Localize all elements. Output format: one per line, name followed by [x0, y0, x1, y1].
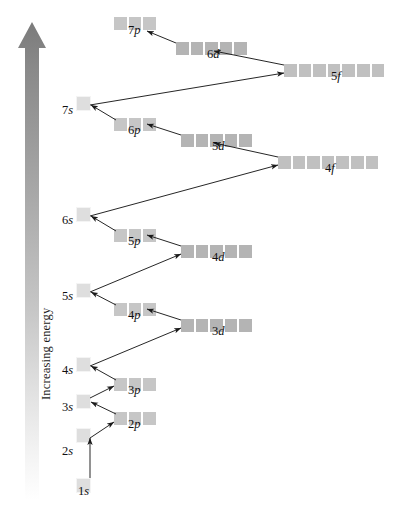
orbital-box-3p-1 — [113, 377, 128, 392]
orbital-label-1s: 1s — [78, 484, 89, 499]
filling-arrow-5s-to-4d — [90, 254, 181, 292]
orbital-box-4d-1 — [180, 244, 195, 259]
orbital-label-2s: 2s — [62, 444, 73, 459]
orbital-energy-diagram: Increasing energy 1s2s2p3s3p4s3d4p5s4d5p… — [0, 0, 404, 515]
orbital-box-4d-4 — [224, 244, 239, 259]
orbital-label-l-2s: s — [68, 444, 73, 458]
orbital-box-6s-1 — [76, 207, 91, 222]
orbital-label-6p: 6p — [128, 123, 141, 138]
orbital-row-3s — [76, 394, 91, 409]
orbital-box-2p-1 — [113, 411, 128, 426]
orbital-box-4f-3 — [306, 155, 321, 170]
orbital-label-l-4p: p — [134, 308, 140, 322]
orbital-label-6s: 6s — [62, 213, 73, 228]
energy-axis-label: Increasing energy — [39, 180, 54, 400]
orbital-label-5p: 5p — [128, 234, 141, 249]
orbital-box-7s-1 — [76, 96, 91, 111]
orbital-box-3d-2 — [195, 318, 210, 333]
orbital-label-l-2p: p — [134, 417, 140, 431]
orbital-row-6s — [76, 207, 91, 222]
orbital-box-5p-1 — [113, 228, 128, 243]
orbital-box-5p-3 — [142, 228, 157, 243]
orbital-label-4d: 4d — [212, 250, 225, 265]
orbital-label-l-5d: d — [218, 139, 224, 153]
orbital-row-5s — [76, 283, 91, 298]
orbital-box-5f-3 — [312, 63, 327, 78]
orbital-box-3s-1 — [76, 394, 91, 409]
orbital-label-l-6d: d — [213, 47, 219, 61]
orbital-box-5d-4 — [224, 133, 239, 148]
orbital-box-6d-4 — [219, 41, 234, 56]
orbital-label-l-6s: s — [68, 213, 73, 227]
orbital-label-4f: 4f — [325, 161, 335, 176]
orbital-box-4f-6 — [350, 155, 365, 170]
filling-arrow-7s-to-5f — [90, 73, 284, 105]
orbital-label-3d: 3d — [212, 324, 225, 339]
orbital-label-l-3p: p — [134, 383, 140, 397]
orbital-label-l-5p: p — [134, 234, 140, 248]
orbital-box-4f-5 — [335, 155, 350, 170]
orbital-row-4s — [76, 357, 91, 372]
orbital-box-4d-5 — [238, 244, 253, 259]
orbital-label-4p: 4p — [128, 308, 141, 323]
filling-arrow-3s-to-3p — [90, 386, 114, 398]
orbital-box-5s-1 — [76, 283, 91, 298]
orbital-label-7s: 7s — [62, 103, 73, 118]
orbital-box-4d-2 — [195, 244, 210, 259]
orbital-box-5d-1 — [180, 133, 195, 148]
filling-arrow-2s-to-2p — [90, 422, 114, 438]
orbital-box-5f-7 — [371, 63, 386, 78]
orbital-label-3s: 3s — [62, 400, 73, 415]
orbital-label-l-4d: d — [218, 250, 224, 264]
orbital-box-4f-1 — [277, 155, 292, 170]
orbital-box-4p-3 — [142, 302, 157, 317]
increasing-energy-arrow: Increasing energy — [0, 0, 72, 515]
orbital-row-7s — [76, 96, 91, 111]
filling-arrow-6d-to-7p — [147, 31, 176, 43]
orbital-box-7p-3 — [142, 16, 157, 31]
orbital-label-l-3d: d — [218, 324, 224, 338]
orbital-label-l-4f: f — [331, 161, 335, 175]
orbital-box-4p-1 — [113, 302, 128, 317]
orbital-label-5d: 5d — [212, 139, 225, 154]
orbital-label-l-3s: s — [68, 400, 73, 414]
orbital-label-l-5s: s — [68, 289, 73, 303]
orbital-label-l-5f: f — [337, 69, 341, 83]
orbital-box-4f-2 — [292, 155, 307, 170]
orbital-label-l-7s: s — [68, 103, 73, 117]
orbital-box-6d-1 — [175, 41, 190, 56]
orbital-box-5f-2 — [298, 63, 313, 78]
orbital-label-3p: 3p — [128, 383, 141, 398]
orbital-box-2s-1 — [76, 428, 91, 443]
orbital-box-3d-4 — [224, 318, 239, 333]
orbital-box-5f-1 — [283, 63, 298, 78]
orbital-box-3d-5 — [238, 318, 253, 333]
energy-arrow-svg — [0, 0, 72, 515]
orbital-box-6p-3 — [142, 117, 157, 132]
orbital-box-5f-6 — [356, 63, 371, 78]
orbital-label-7p: 7p — [128, 23, 141, 38]
orbital-label-l-6p: p — [134, 123, 140, 137]
orbital-label-2p: 2p — [128, 417, 141, 432]
orbital-label-5f: 5f — [331, 69, 341, 84]
filling-arrow-6s-to-4f — [90, 165, 278, 216]
orbital-box-7p-1 — [113, 16, 128, 31]
orbital-box-5d-2 — [195, 133, 210, 148]
filling-arrow-4s-to-3d — [90, 328, 181, 366]
orbital-label-l-1s: s — [84, 484, 89, 498]
orbital-box-6p-1 — [113, 117, 128, 132]
orbital-label-l-7p: p — [134, 23, 140, 37]
orbital-box-5d-5 — [238, 133, 253, 148]
orbital-box-4f-7 — [365, 155, 380, 170]
orbital-box-4s-1 — [76, 357, 91, 372]
orbital-box-5f-5 — [341, 63, 356, 78]
orbital-box-6d-2 — [190, 41, 205, 56]
orbital-label-4s: 4s — [62, 363, 73, 378]
orbital-box-6d-5 — [233, 41, 248, 56]
orbital-box-3d-1 — [180, 318, 195, 333]
orbital-label-l-4s: s — [68, 363, 73, 377]
orbital-label-5s: 5s — [62, 289, 73, 304]
orbital-box-3p-3 — [142, 377, 157, 392]
orbital-label-6d: 6d — [207, 47, 220, 62]
orbital-row-2s — [76, 428, 91, 443]
